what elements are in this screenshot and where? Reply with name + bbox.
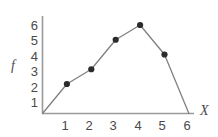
data-point-marker — [88, 66, 94, 72]
data-point-marker — [137, 22, 143, 28]
y-tick-label-2: 2 — [24, 81, 38, 94]
x-tick-label-5: 5 — [155, 119, 169, 132]
data-point-marker — [161, 51, 167, 57]
x-tick-label-1: 1 — [58, 119, 72, 132]
x-axis-title: X — [200, 104, 209, 118]
y-tick-label-1: 1 — [24, 96, 38, 109]
x-tick-label-2: 2 — [82, 119, 96, 132]
y-tick-label-5: 5 — [24, 34, 38, 47]
y-tick-label-3: 3 — [24, 65, 38, 78]
x-tick-label-3: 3 — [106, 119, 120, 132]
y-tick-label-4: 4 — [24, 50, 38, 63]
y-axis-title: f — [11, 59, 15, 73]
data-point-markers — [64, 22, 168, 87]
data-point-marker — [64, 81, 70, 87]
x-tick-label-6: 6 — [180, 119, 194, 132]
data-point-marker — [113, 37, 119, 43]
frequency-polygon-chart: 6 5 4 3 2 1 1 2 3 4 5 6 f X — [0, 0, 218, 137]
x-tick-label-4: 4 — [131, 119, 145, 132]
y-tick-label-6: 6 — [24, 19, 38, 32]
